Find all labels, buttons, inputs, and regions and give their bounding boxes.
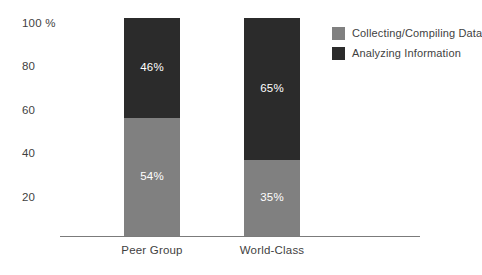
x-axis-line — [60, 236, 420, 237]
bar-world-class[interactable]: 65% 35% — [244, 18, 300, 236]
legend-swatch-icon — [332, 27, 345, 40]
legend-item-label: Collecting/Compiling Data — [352, 28, 482, 39]
legend-item-collecting-compiling-data[interactable]: Collecting/Compiling Data — [332, 27, 482, 40]
bar-segment-value-label: 54% — [140, 171, 164, 183]
bar-segment-value-label: 35% — [260, 192, 284, 204]
bar-stack: 46% 54% — [124, 18, 180, 236]
legend-swatch-icon — [332, 47, 345, 60]
legend-item-analyzing-information[interactable]: Analyzing Information — [332, 47, 482, 60]
bar-peer-group[interactable]: 46% 54% — [124, 18, 180, 236]
bar-segment-collecting-compiling-data[interactable]: 54% — [124, 118, 180, 236]
x-axis-label-world-class: World-Class — [202, 245, 342, 257]
bar-segment-value-label: 46% — [140, 62, 164, 74]
bar-segment-collecting-compiling-data[interactable]: 35% — [244, 160, 300, 236]
legend-item-label: Analyzing Information — [352, 48, 461, 59]
legend: Collecting/Compiling Data Analyzing Info… — [332, 27, 482, 67]
bar-segment-analyzing-information[interactable]: 65% — [244, 18, 300, 160]
bar-segment-analyzing-information[interactable]: 46% — [124, 18, 180, 118]
bar-segment-value-label: 65% — [260, 83, 284, 95]
bar-stack: 65% 35% — [244, 18, 300, 236]
x-axis-label-peer-group: Peer Group — [82, 245, 222, 257]
